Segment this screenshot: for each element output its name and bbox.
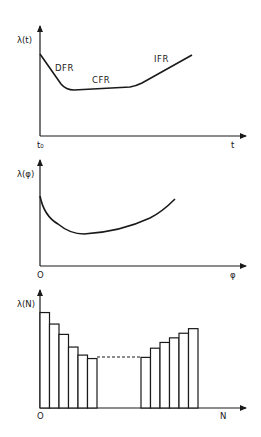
bar-N-3 bbox=[160, 342, 170, 408]
bar-6 bbox=[88, 359, 98, 408]
origin-label: O bbox=[37, 411, 44, 421]
phi-chart: λ(φ) φ O bbox=[17, 160, 246, 280]
bar-N-5 bbox=[141, 357, 151, 408]
bar-N-1 bbox=[179, 333, 189, 408]
dfr-annotation: DFR bbox=[55, 63, 74, 73]
origin-label: O bbox=[37, 270, 44, 280]
x-axis-label: φ bbox=[230, 270, 236, 280]
bar-1 bbox=[40, 313, 50, 408]
bar-4 bbox=[69, 347, 79, 408]
bathtub-chart: λ(t) t t₀ DFR CFR IFR bbox=[17, 26, 246, 150]
ifr-annotation: IFR bbox=[154, 54, 169, 64]
bars-group bbox=[40, 313, 198, 408]
bar-N bbox=[189, 329, 199, 408]
bar-chart: λ(N) N O bbox=[17, 290, 246, 421]
failure-rate-curve bbox=[40, 196, 175, 234]
x-axis-label: N bbox=[220, 411, 226, 421]
bar-N-2 bbox=[170, 338, 180, 408]
origin-label: t₀ bbox=[37, 140, 44, 150]
bar-N-4 bbox=[151, 348, 161, 408]
y-axis-label: λ(t) bbox=[17, 35, 32, 45]
cfr-annotation: CFR bbox=[92, 75, 110, 85]
y-axis-label: λ(φ) bbox=[17, 169, 34, 179]
bar-3 bbox=[59, 334, 69, 408]
figure-canvas: λ(t) t t₀ DFR CFR IFR λ(φ) φ O λ(N) N O bbox=[0, 0, 261, 437]
bar-5 bbox=[78, 355, 88, 408]
x-axis-label: t bbox=[231, 140, 235, 150]
y-axis-label: λ(N) bbox=[17, 299, 35, 309]
bar-2 bbox=[50, 324, 60, 408]
